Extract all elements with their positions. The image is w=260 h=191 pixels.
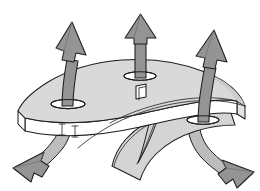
hole-square-opening [136,84,146,99]
hole-square [136,84,146,100]
arrow-up-right-head [196,30,227,69]
arrow-up-left-head [56,22,86,62]
arrow-up-center-head [125,14,156,44]
technical-illustration: Draw-direction arrows through perforated… [0,0,260,191]
figure-root: Draw-direction arrows through perforated… [0,0,260,191]
